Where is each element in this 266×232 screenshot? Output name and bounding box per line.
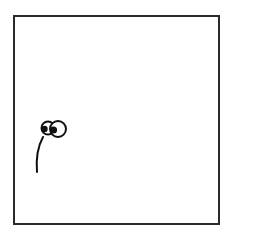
caption-text [14,227,254,232]
eyes-on-stalk-icon [0,0,266,232]
